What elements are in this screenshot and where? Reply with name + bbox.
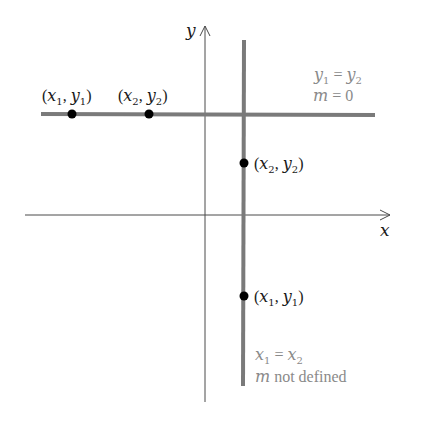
horizontal-condition-label: y1 = y2: [313, 65, 362, 86]
vertical-point-2: [240, 159, 249, 168]
vertical-condition-label: x1 = x2: [255, 345, 303, 366]
vertical-point-1: [240, 292, 249, 301]
horizontal-line-group: (x1, y1) (x2, y2) y1 = y2 m = 0: [41, 65, 375, 119]
vertical-point-1-label: (x1, y1): [254, 287, 303, 308]
horizontal-point-2: [145, 110, 154, 119]
horizontal-point-1-label: (x1, y1): [42, 86, 91, 107]
vertical-line: [243, 40, 244, 386]
y-axis-label: y: [185, 20, 196, 40]
slope-diagram: y x (x1, y1) (x2, y2) y1 = y2 m = 0 (x2,…: [0, 0, 421, 428]
horizontal-point-2-label: (x2, y2): [118, 86, 167, 107]
vertical-slope-label: m not defined: [255, 367, 347, 386]
horizontal-slope-label: m = 0: [313, 86, 353, 105]
horizontal-point-1: [68, 110, 77, 119]
x-axis-label: x: [380, 220, 390, 240]
horizontal-line: [41, 114, 375, 115]
vertical-point-2-label: (x2, y2): [254, 154, 303, 175]
